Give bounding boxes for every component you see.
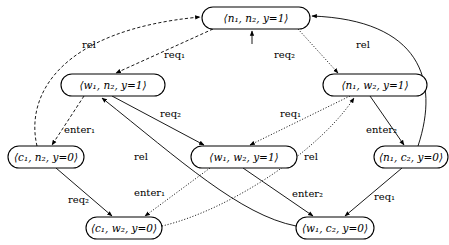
node-w1-c2-y0: ⟨w₁, c₂, y=0⟩ — [296, 217, 374, 239]
node-n1-w2-y1: ⟨n₁, w₂, y=1⟩ — [323, 74, 427, 96]
label-rel-top-left: rel — [82, 39, 96, 50]
label-req2-bottom-left: req₂ — [68, 194, 89, 205]
node-label: ⟨c₁, w₂, y=0⟩ — [91, 222, 157, 234]
node-label: ⟨w₁, w₂, y=1⟩ — [209, 151, 278, 163]
node-label: ⟨w₁, c₂, y=0⟩ — [302, 222, 368, 234]
edge-n1w2-w1w2-req1 — [250, 96, 350, 145]
node-label: ⟨n₁, w₂, y=1⟩ — [341, 79, 408, 91]
label-rel-top-right: rel — [356, 39, 370, 50]
label-enter1-bottom: enter₁ — [134, 187, 165, 198]
node-w1-n2-y1: ⟨w₁, n₂, y=1⟩ — [61, 74, 165, 96]
node-label: ⟨n₁, n₂, y=1⟩ — [224, 12, 289, 24]
edge-n1n2-n1w2-req2 — [298, 29, 338, 73]
label-req1-mid: req₁ — [280, 108, 301, 119]
edge-n1w2-n1c2-enter2 — [370, 96, 404, 145]
node-w1-w2-y1: ⟨w₁, w₂, y=1⟩ — [191, 146, 297, 168]
node-label: ⟨c₁, n₂, y=0⟩ — [14, 151, 78, 163]
node-n1-n2-y1: ⟨n₁, n₂, y=1⟩ — [202, 7, 310, 29]
node-c1-w2-y0: ⟨c₁, w₂, y=0⟩ — [86, 217, 162, 239]
label-req2-mid: req₂ — [160, 108, 181, 119]
label-req2-top: req₂ — [274, 49, 295, 60]
edge-labels: rel rel req₁ req₂ enter₁ req₂ req₁ enter… — [64, 39, 397, 205]
state-diagram: rel rel req₁ req₂ enter₁ req₂ req₁ enter… — [0, 0, 449, 245]
edge-w1n2-w1w2-req2 — [112, 96, 204, 145]
edge-w1n2-c1n2-enter1 — [52, 96, 84, 145]
label-req1-bottom-right: req₁ — [374, 191, 395, 202]
label-enter2-bottom: enter₂ — [292, 188, 323, 199]
label-rel-left-mid: rel — [134, 151, 148, 162]
edge-c1n2-c1w2-req2 — [56, 168, 112, 216]
label-req1-top: req₁ — [164, 49, 185, 60]
node-n1-c2-y0: ⟨n₁, c₂, y=0⟩ — [374, 146, 448, 168]
label-enter2-right: enter₂ — [366, 124, 397, 135]
node-label: ⟨n₁, c₂, y=0⟩ — [379, 151, 443, 163]
label-rel-center: rel — [304, 151, 318, 162]
node-label: ⟨w₁, n₂, y=1⟩ — [79, 79, 146, 91]
node-c1-n2-y0: ⟨c₁, n₂, y=0⟩ — [8, 146, 84, 168]
label-enter1-left: enter₁ — [64, 124, 95, 135]
